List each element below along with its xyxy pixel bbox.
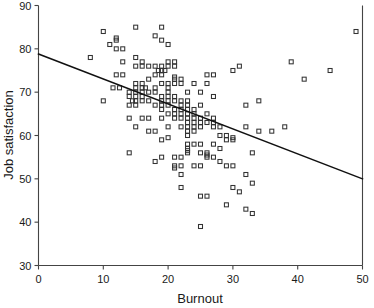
data-point	[147, 90, 151, 94]
data-point	[283, 125, 287, 129]
data-point	[186, 99, 190, 103]
data-point	[173, 116, 177, 120]
data-point	[166, 90, 170, 94]
data-point	[121, 73, 125, 77]
data-point	[186, 129, 190, 133]
data-point	[166, 112, 170, 116]
data-point	[160, 73, 164, 77]
data-point	[134, 95, 138, 99]
data-point	[224, 203, 228, 207]
data-point	[127, 116, 131, 120]
data-point	[192, 121, 196, 125]
data-point	[134, 103, 138, 107]
data-point	[134, 82, 138, 86]
data-point	[173, 64, 177, 68]
y-tick-label: 40	[19, 216, 31, 228]
data-point	[140, 82, 144, 86]
y-tick-label: 90	[19, 0, 31, 12]
data-point	[160, 103, 164, 107]
data-point	[147, 99, 151, 103]
data-point	[237, 64, 241, 68]
data-point	[211, 95, 215, 99]
data-point	[166, 95, 170, 99]
data-point	[250, 212, 254, 216]
data-point	[173, 82, 177, 86]
data-point	[199, 164, 203, 168]
data-point	[153, 64, 157, 68]
y-tick-label: 50	[19, 173, 31, 185]
data-point	[211, 142, 215, 146]
data-point	[179, 82, 183, 86]
data-point	[140, 60, 144, 64]
data-point	[231, 186, 235, 190]
data-point	[140, 99, 144, 103]
data-point	[205, 194, 209, 198]
data-point	[179, 116, 183, 120]
data-point	[186, 134, 190, 138]
data-point	[270, 129, 274, 133]
data-point	[179, 103, 183, 107]
data-point	[186, 125, 190, 129]
x-tick-label: 10	[97, 273, 109, 285]
data-point	[224, 134, 228, 138]
data-point	[186, 121, 190, 125]
data-point	[192, 125, 196, 129]
x-tick-label: 0	[35, 273, 41, 285]
x-tick-label: 40	[292, 273, 304, 285]
data-point	[218, 160, 222, 164]
data-point	[199, 194, 203, 198]
data-point	[186, 116, 190, 120]
data-point	[179, 173, 183, 177]
data-point	[211, 73, 215, 77]
data-point	[224, 138, 228, 142]
data-point	[173, 99, 177, 103]
data-point	[231, 164, 235, 168]
data-point	[257, 99, 261, 103]
x-tick-label: 50	[356, 273, 368, 285]
data-point	[328, 69, 332, 73]
data-point	[166, 64, 170, 68]
y-tick-label: 30	[19, 260, 31, 272]
data-point	[205, 82, 209, 86]
data-point	[160, 138, 164, 142]
data-point	[166, 43, 170, 47]
x-tick-label: 30	[227, 273, 239, 285]
data-point	[192, 129, 196, 133]
chart-canvas: 30405060708090 01020304050 Burnout Job s…	[0, 0, 374, 308]
data-point	[153, 129, 157, 133]
data-point	[166, 60, 170, 64]
y-tick-label: 80	[19, 43, 31, 55]
data-point	[244, 207, 248, 211]
data-point	[205, 121, 209, 125]
data-point	[134, 25, 138, 29]
data-point	[250, 181, 254, 185]
data-point	[166, 86, 170, 90]
data-point	[153, 90, 157, 94]
data-point	[88, 56, 92, 60]
data-point	[354, 30, 358, 34]
data-point	[153, 73, 157, 77]
data-point	[108, 43, 112, 47]
data-point	[166, 125, 170, 129]
data-point	[231, 69, 235, 73]
data-point	[199, 121, 203, 125]
data-point	[134, 125, 138, 129]
scatter-points	[88, 25, 358, 228]
data-point	[218, 147, 222, 151]
axes	[39, 6, 363, 266]
data-point	[101, 30, 105, 34]
data-point	[192, 108, 196, 112]
data-point	[192, 82, 196, 86]
regression-line	[39, 54, 363, 179]
data-point	[147, 77, 151, 81]
data-point	[160, 155, 164, 159]
data-point	[147, 116, 151, 120]
data-point	[153, 86, 157, 90]
data-point	[147, 64, 151, 68]
data-point	[199, 125, 203, 129]
data-point	[224, 164, 228, 168]
data-point	[186, 142, 190, 146]
data-point	[160, 25, 164, 29]
data-point	[244, 103, 248, 107]
data-point	[101, 99, 105, 103]
